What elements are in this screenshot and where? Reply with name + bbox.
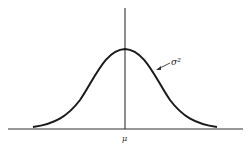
normal-distribution-diagram: σ² μ	[0, 0, 252, 146]
mean-label: μ	[122, 134, 127, 143]
variance-label: σ²	[171, 57, 181, 67]
arrow-head-icon	[156, 66, 161, 70]
